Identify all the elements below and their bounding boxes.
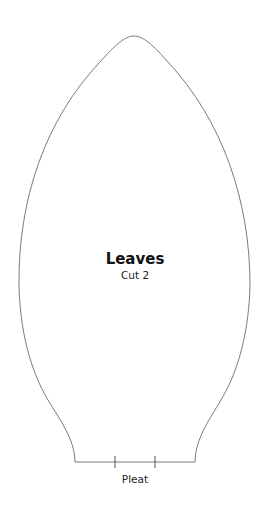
pattern-piece-canvas: Leaves Cut 2 Pleat xyxy=(0,0,256,523)
pattern-title: Leaves xyxy=(106,250,165,268)
pleat-label: Pleat xyxy=(122,473,148,485)
cut-instruction: Cut 2 xyxy=(121,269,149,281)
leaf-outline xyxy=(19,36,250,462)
